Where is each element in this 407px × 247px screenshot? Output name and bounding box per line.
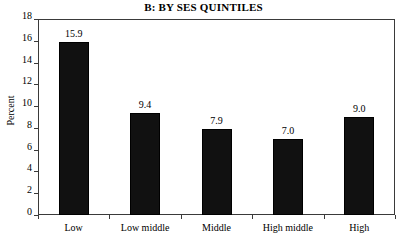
y-axis-tick-mark bbox=[34, 106, 38, 107]
bar-value-label: 9.4 bbox=[120, 100, 170, 110]
bar bbox=[202, 129, 232, 215]
bar-value-label: 15.9 bbox=[49, 29, 99, 39]
bar bbox=[273, 139, 303, 215]
x-axis-tick-mark bbox=[324, 215, 325, 219]
y-axis-tick-label: 0 bbox=[27, 207, 32, 217]
y-axis-tick-mark bbox=[34, 63, 38, 64]
y-axis-tick-mark bbox=[34, 41, 38, 42]
x-axis-tick-mark bbox=[252, 215, 253, 219]
bar-value-label: 7.0 bbox=[263, 126, 313, 136]
bar-chart: B: BY SES QUINTILES Percent 024681012141… bbox=[0, 0, 407, 247]
y-axis-tick-mark bbox=[34, 193, 38, 194]
bar-value-label: 9.0 bbox=[334, 104, 384, 114]
bar bbox=[130, 113, 160, 215]
x-axis-category-label: High bbox=[314, 222, 404, 233]
y-axis-tick-label: 4 bbox=[27, 163, 32, 173]
y-axis-tick-label: 8 bbox=[27, 120, 32, 130]
bar bbox=[59, 42, 89, 215]
y-axis-title: Percent bbox=[5, 81, 16, 141]
y-axis-tick-label: 6 bbox=[27, 142, 32, 152]
y-axis-tick-mark bbox=[34, 84, 38, 85]
x-axis-tick-mark bbox=[38, 215, 39, 219]
bar-value-label: 7.9 bbox=[192, 116, 242, 126]
y-axis-tick-mark bbox=[34, 171, 38, 172]
y-axis-tick-mark bbox=[34, 150, 38, 151]
y-axis-tick-mark bbox=[34, 128, 38, 129]
x-axis-tick-mark bbox=[395, 215, 396, 219]
y-axis-tick-mark bbox=[34, 19, 38, 20]
y-axis-tick-label: 16 bbox=[22, 33, 32, 43]
x-axis-tick-mark bbox=[109, 215, 110, 219]
x-axis-tick-mark bbox=[181, 215, 182, 219]
y-axis-tick-label: 2 bbox=[27, 185, 32, 195]
y-axis-tick-label: 12 bbox=[22, 76, 32, 86]
y-axis-tick-label: 18 bbox=[22, 11, 32, 21]
bar bbox=[344, 117, 374, 215]
chart-title: B: BY SES QUINTILES bbox=[0, 1, 407, 13]
y-axis-tick-label: 14 bbox=[22, 55, 32, 65]
y-axis-tick-label: 10 bbox=[22, 98, 32, 108]
